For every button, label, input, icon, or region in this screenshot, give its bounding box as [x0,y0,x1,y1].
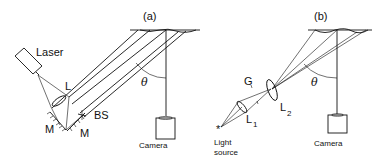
beams-to-surface-b [272,30,366,89]
light-source-icon: * [216,123,221,135]
mirror-1-label: M [45,123,54,135]
camera-label-a: Camera [139,141,168,150]
camera-icon-b [328,114,347,133]
lens-l2-label: L [280,101,286,113]
laser-label: Laser [36,46,64,58]
optical-setup-diagram: (a) Laser L M M [0,0,389,162]
lens-l-label: L [65,80,71,92]
camera-icon-a [156,117,175,140]
lens-l1-label: L [246,113,252,125]
light-source-label-line2: source [214,148,239,157]
theta-label-b: θ [311,76,318,89]
beam-splitter-label: BS [94,109,109,121]
lens-l2-subscript: 2 [287,109,292,118]
mirror-2-label: M [80,127,89,139]
panel-a-label: (a) [143,10,156,22]
panel-b-label: (b) [314,10,327,22]
grating-label: G [244,75,253,87]
panel-a: (a) Laser L M M [15,10,200,150]
panel-b: (b) * Light source L 1 G L 2 [214,10,372,157]
camera-label-b: Camera [314,139,343,148]
lens-l1-subscript: 1 [253,120,258,129]
theta-label-a: θ [141,76,148,89]
light-source-label-line1: Light [214,138,232,147]
